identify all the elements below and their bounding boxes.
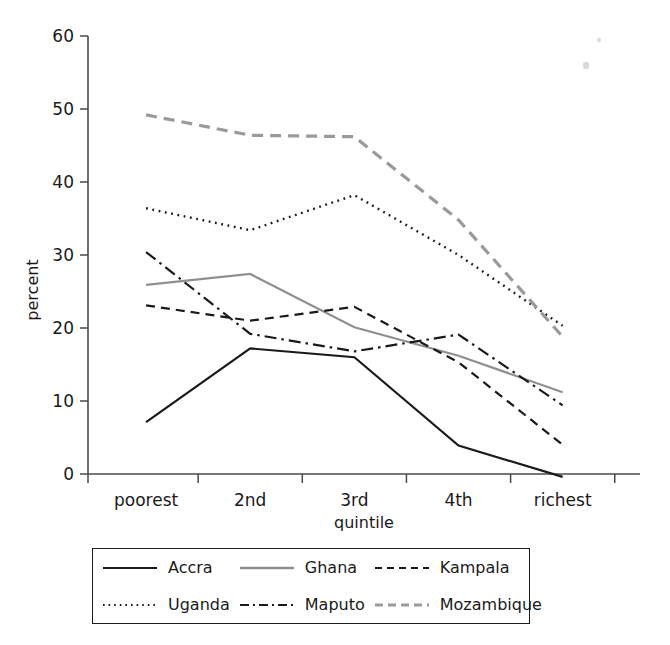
legend-grid: Accra Ghana Kampala Uganda — [93, 549, 529, 623]
dashdot-black-line-icon — [238, 598, 296, 612]
chart-legend: Accra Ghana Kampala Uganda — [92, 548, 530, 624]
y-tick-label: 40 — [52, 172, 74, 192]
y-tick-label: 60 — [52, 26, 74, 46]
x-axis-ticks — [88, 474, 615, 483]
legend-label-uganda: Uganda — [168, 595, 230, 614]
y-tick-label: 10 — [52, 391, 74, 411]
x-tick-label: 3rd — [340, 490, 368, 510]
y-axis-tick-labels: 0102030405060 — [52, 26, 74, 484]
legend-label-maputo: Maputo — [305, 595, 365, 614]
dotted-black-line-icon — [101, 598, 159, 612]
legend-item-maputo[interactable]: Maputo — [230, 595, 365, 614]
solid-gray-line-icon — [238, 561, 296, 575]
series-line-accra — [146, 348, 563, 476]
chart-figure: 0102030405060 poorest2nd3rd4thrichest pe… — [0, 0, 670, 645]
legend-item-accra[interactable]: Accra — [93, 558, 230, 577]
legend-label-accra: Accra — [168, 558, 213, 577]
legend-item-uganda[interactable]: Uganda — [93, 595, 230, 614]
y-tick-label: 50 — [52, 99, 74, 119]
y-axis-title: percent — [23, 259, 42, 320]
x-axis-tick-labels: poorest2nd3rd4thrichest — [114, 490, 592, 510]
scan-speck — [597, 38, 601, 42]
scan-speck — [583, 62, 589, 69]
y-tick-label: 30 — [52, 245, 74, 265]
series-lines — [146, 115, 563, 477]
x-tick-label: poorest — [114, 490, 179, 510]
dashed-black-line-icon — [373, 561, 431, 575]
legend-label-ghana: Ghana — [305, 558, 357, 577]
legend-item-ghana[interactable]: Ghana — [230, 558, 365, 577]
x-tick-label: 2nd — [234, 490, 266, 510]
y-axis-ticks — [80, 36, 88, 474]
x-tick-label: 4th — [444, 490, 472, 510]
line-chart-plot: 0102030405060 poorest2nd3rd4thrichest pe… — [0, 0, 670, 540]
x-tick-label: richest — [534, 490, 592, 510]
series-line-mozambique — [146, 115, 563, 337]
y-tick-label: 20 — [52, 318, 74, 338]
legend-item-kampala[interactable]: Kampala — [365, 558, 542, 577]
dashed-gray-line-icon — [373, 598, 431, 612]
legend-label-mozambique: Mozambique — [440, 595, 542, 614]
legend-label-kampala: Kampala — [440, 558, 510, 577]
y-tick-label: 0 — [63, 464, 74, 484]
x-axis-title: quintile — [334, 513, 394, 532]
series-line-maputo — [146, 252, 563, 405]
legend-item-mozambique[interactable]: Mozambique — [365, 595, 542, 614]
series-line-ghana — [146, 274, 563, 392]
solid-black-line-icon — [101, 561, 159, 575]
